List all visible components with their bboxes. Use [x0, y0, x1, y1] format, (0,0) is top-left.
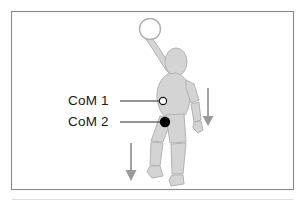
torso [157, 73, 190, 119]
ball-open-circle [140, 19, 161, 40]
front-leg-thigh [166, 114, 186, 143]
com-1-label: CoM 1 [68, 93, 109, 108]
front-leg-foot [169, 175, 184, 186]
com-1-marker-open-circle-icon [159, 97, 166, 104]
com-2-label: CoM 2 [68, 114, 109, 129]
head-oval [165, 48, 187, 76]
figure-container: CoM 1 CoM 2 [0, 0, 305, 206]
com-2-marker-filled-circle-icon [160, 117, 170, 127]
illustration-canvas: CoM 1 CoM 2 [0, 0, 305, 206]
front-leg-shin [171, 143, 186, 174]
